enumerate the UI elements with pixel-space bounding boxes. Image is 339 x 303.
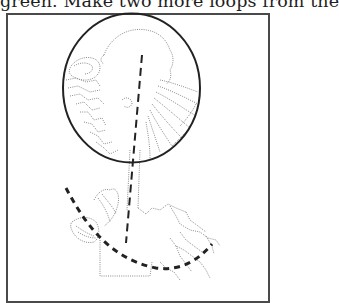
curved-dashed-guide — [66, 188, 212, 269]
focal-circle — [63, 14, 200, 163]
vertical-dashed-guide — [126, 55, 142, 243]
